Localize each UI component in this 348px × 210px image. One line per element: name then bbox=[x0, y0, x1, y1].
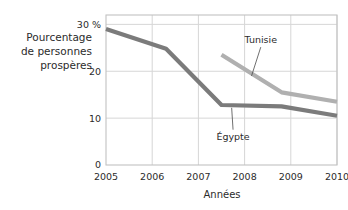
x-axis-tick-label: 2006 bbox=[140, 171, 164, 182]
annotation-label-gypte: Égypte bbox=[216, 131, 249, 142]
chart-container: 0102030 % 200520062007200820092010 Pourc… bbox=[0, 0, 348, 210]
percentage-prosperous-line-chart: 0102030 % 200520062007200820092010 Pourc… bbox=[0, 0, 348, 210]
x-axis-tick-label: 2007 bbox=[186, 171, 210, 182]
x-axis-tick-label: 2009 bbox=[279, 171, 303, 182]
y-axis-tick-label: 30 % bbox=[77, 19, 101, 30]
annotation-label-tunisie: Tunisie bbox=[244, 34, 278, 45]
x-axis-tick-label: 2005 bbox=[94, 171, 118, 182]
y-axis-tick-label: 10 bbox=[89, 113, 101, 124]
y-axis-title-line: de personnes bbox=[21, 45, 92, 57]
x-axis-tick-label: 2008 bbox=[233, 171, 257, 182]
y-axis-tick-label: 0 bbox=[95, 159, 101, 170]
y-axis-title-line: Pourcentage bbox=[26, 31, 92, 43]
y-axis-title-line: prospères bbox=[40, 59, 92, 71]
x-axis-title: Années bbox=[203, 189, 240, 200]
x-axis-tick-label: 2010 bbox=[325, 171, 348, 182]
